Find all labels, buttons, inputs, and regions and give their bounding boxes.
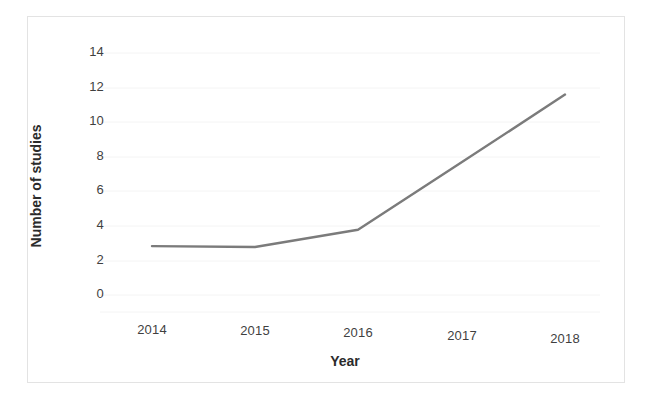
x-tick-2017: 2017 — [422, 328, 502, 343]
x-tick-2015: 2015 — [215, 323, 295, 338]
series-line-number-of-studies — [152, 95, 565, 247]
series-layer — [0, 0, 659, 412]
x-tick-2018: 2018 — [525, 331, 605, 346]
plot-area: 14 12 10 8 6 4 2 0 2014 2015 2016 2017 — [0, 0, 659, 412]
x-tick-2014: 2014 — [112, 322, 192, 337]
x-tick-2016: 2016 — [318, 325, 398, 340]
chart-figure: 14 12 10 8 6 4 2 0 2014 2015 2016 2017 — [0, 0, 659, 412]
x-axis-label: Year — [330, 353, 360, 369]
y-axis-label: Number of studies — [28, 125, 44, 248]
